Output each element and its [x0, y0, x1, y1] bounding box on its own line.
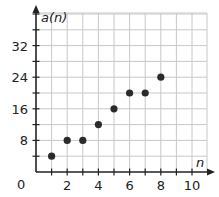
data-point — [110, 105, 117, 112]
ticks — [33, 14, 193, 176]
x-tick-label: 6 — [125, 178, 133, 193]
y-tick-label: 32 — [11, 39, 28, 54]
y-axis-label: a(n) — [41, 10, 67, 25]
data-point — [157, 74, 164, 81]
x-axis-label: n — [196, 155, 204, 170]
axes — [33, 5, 216, 176]
x-tick-label: 4 — [94, 178, 102, 193]
data-point — [64, 137, 71, 144]
y-tick-label: 8 — [20, 133, 28, 148]
data-point — [48, 153, 55, 160]
x-axis-arrow-icon — [207, 169, 215, 176]
scatter-chart: 2468108162432 0 n a(n) — [0, 0, 219, 197]
x-tick-label: 8 — [157, 178, 165, 193]
grid-lines — [36, 13, 207, 172]
origin-label: 0 — [17, 177, 25, 192]
data-point — [126, 89, 133, 96]
y-tick-label: 16 — [11, 102, 28, 117]
data-point — [142, 89, 149, 96]
data-points — [48, 74, 164, 160]
data-point — [79, 137, 86, 144]
x-tick-label: 2 — [63, 178, 71, 193]
x-tick-label: 10 — [184, 178, 201, 193]
y-tick-label: 24 — [11, 70, 28, 85]
data-point — [95, 121, 102, 128]
y-axis-arrow-icon — [33, 5, 40, 13]
